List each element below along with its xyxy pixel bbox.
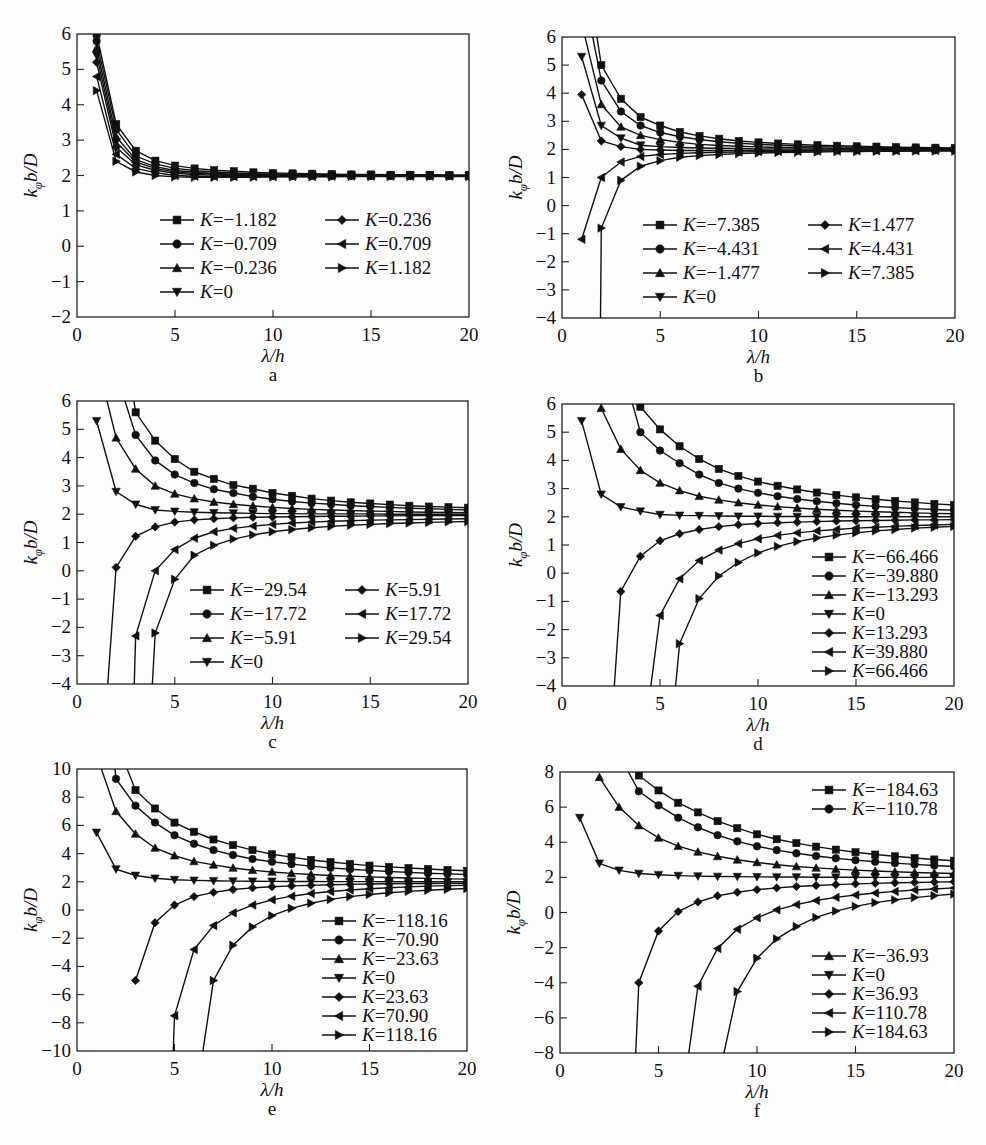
diamond-marker-icon [357,585,366,594]
triangle-right-marker-icon [832,907,840,915]
y-tick-label: 2 [547,506,557,527]
legend-item: K=118.16 [322,1024,437,1045]
square-marker-icon [656,426,663,433]
circle-marker-icon [891,859,899,867]
legend-item: K=−4.431 [643,238,760,259]
y-tick-label: 5 [547,421,557,442]
legend-label: K=66.466 [851,660,928,681]
triangle-left-marker-icon [334,1011,342,1020]
circle-marker-icon [656,447,664,455]
x-tick-label: 20 [459,691,478,712]
square-marker-icon [715,465,722,472]
chart-panel-a: 05101520−2−10123456λ/hkφb/DaK=−1.182K=−0… [20,23,479,385]
circle-marker-icon [714,831,722,839]
legend-label: K=−13.293 [851,584,938,605]
legend-item: K=110.78 [812,1002,927,1023]
circle-marker-icon [327,864,335,872]
triangle-left-marker-icon [268,896,276,904]
y-tick-label: −4 [51,673,72,694]
circle-marker-icon [269,495,277,503]
y-tick-label: 5 [62,418,72,439]
square-marker-icon [813,489,820,496]
x-tick-label: 20 [460,324,479,345]
triangle-right-marker-icon [734,987,742,995]
square-marker-icon [249,847,256,854]
square-marker-icon [655,787,662,794]
legend-label: K=−17.72 [229,603,307,624]
legend-item: K=1.182 [325,257,431,278]
triangle-right-marker-icon [269,528,277,536]
diamond-marker-icon [832,880,840,888]
triangle-right-marker-icon [813,913,821,921]
triangle-right-marker-icon [210,541,218,549]
y-axis-label: kφb/D [20,520,45,564]
legend-item: K=0 [190,651,263,672]
square-marker-icon [774,482,781,489]
y-axis-label: kφb/D [503,890,528,934]
legend-item: K=−66.466 [812,546,938,567]
y-tick-label: 6 [62,814,72,835]
square-marker-icon [288,854,295,861]
y-tick-label: 2 [62,503,72,524]
x-axis-label: λ/h [746,346,770,367]
legend-label: K=−1.182 [199,209,277,230]
legend-label: K=0 [682,286,716,307]
y-tick-label: 6 [547,26,557,47]
diamond-marker-icon [248,884,256,892]
square-marker-icon [132,787,139,794]
diamond-marker-icon [249,513,257,521]
circle-marker-icon [151,457,159,465]
triangle-left-marker-icon [713,944,721,952]
triangle-left-marker-icon [190,534,198,542]
square-marker-icon [675,799,682,806]
triangle-right-marker-icon [338,263,346,272]
triangle-up-marker-icon [636,131,644,139]
legend-item: K=0 [812,603,885,624]
y-tick-label: 5 [547,54,557,75]
x-tick-label: 5 [170,1058,180,1079]
legend: K=−29.54K=−17.72K=−5.91K=0K=5.91K=17.72K… [190,579,452,672]
y-tick-label: 10 [52,758,71,779]
legend-label: K=1.182 [364,257,431,278]
diamond-marker-icon [950,878,958,886]
y-tick-label: −4 [534,972,555,993]
y-tick-label: −2 [51,306,71,327]
plot-area [577,0,959,338]
triangle-up-marker-icon [171,490,179,498]
circle-marker-icon [715,479,723,487]
circle-marker-icon [173,240,181,248]
triangle-right-marker-icon [358,633,366,642]
y-tick-label: 1 [62,200,72,221]
legend-item: K=0.236 [325,209,431,230]
triangle-right-marker-icon [821,268,829,277]
circle-marker-icon [132,802,140,810]
diamond-marker-icon [675,530,683,538]
y-tick-label: −2 [51,616,71,637]
legend-label: K=29.54 [384,627,452,648]
square-marker-icon [793,840,800,847]
triangle-up-marker-icon [654,834,662,842]
x-tick-label: 0 [72,1058,82,1079]
circle-marker-icon [210,486,218,494]
y-tick-label: 2 [62,165,72,186]
triangle-up-marker-icon [112,807,120,815]
diamond-marker-icon [229,514,237,522]
diamond-marker-icon [229,885,237,893]
square-marker-icon [825,553,833,561]
legend-item: K=−0.709 [160,233,277,254]
triangle-right-marker-icon [735,558,743,566]
diamond-marker-icon [820,220,829,229]
triangle-left-marker-icon [287,892,295,900]
legend-item: K=−36.93 [812,945,929,966]
y-tick-label: −4 [51,955,72,976]
legend-label: K=−66.466 [851,546,938,567]
legend-item: K=−39.880 [812,565,938,586]
circle-marker-icon [871,858,879,866]
square-marker-icon [191,468,198,475]
x-tick-label: 15 [847,325,866,346]
triangle-right-marker-icon [327,895,335,903]
triangle-left-marker-icon [832,893,840,901]
legend-label: K=−0.709 [199,233,277,254]
y-tick-label: −6 [534,1007,554,1028]
chart-panel-d: 05101520−4−3−2−10123456λ/hkφb/DdK=−66.46… [505,362,964,754]
